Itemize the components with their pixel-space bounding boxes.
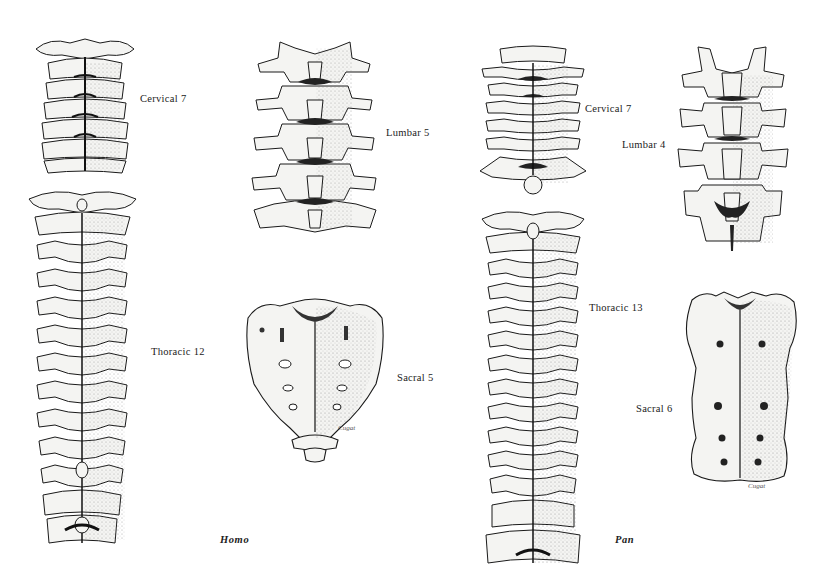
pan-sacrum-illustration: [676, 288, 806, 488]
pan-cervical-illustration: [478, 45, 588, 195]
homo-lumbar-illustration: [250, 38, 380, 233]
homo-artist-signature: Cugat: [338, 424, 355, 432]
pan-lumbar-illustration: [676, 45, 791, 255]
pan-sacral-label: Sacral 6: [636, 403, 673, 414]
pan-cervical-label: Cervical 7: [585, 103, 631, 114]
homo-cervical-illustration: [30, 35, 140, 175]
homo-thoracic-label: Thoracic 12: [151, 346, 205, 357]
pan-thoracic-illustration: [478, 205, 588, 570]
pan-lumbar-label: Lumbar 4: [622, 139, 666, 150]
homo-sacral-label: Sacral 5: [397, 372, 434, 383]
homo-sacrum-illustration: [240, 292, 390, 467]
homo-cervical-label: Cervical 7: [140, 93, 186, 104]
pan-artist-signature: Cugat: [748, 482, 765, 490]
anatomical-plate: Cervical 7 Thoracic 12: [0, 0, 834, 581]
homo-genus-label: Homo: [220, 534, 249, 545]
pan-genus-label: Pan: [615, 534, 634, 545]
pan-thoracic-label: Thoracic 13: [589, 302, 643, 313]
homo-lumbar-label: Lumbar 5: [386, 127, 430, 138]
homo-thoracic-illustration: [25, 185, 140, 550]
